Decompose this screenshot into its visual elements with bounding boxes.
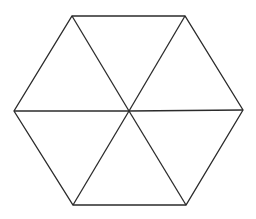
hexagon-diagram (0, 0, 256, 219)
hexagon-svg (0, 0, 256, 219)
spoke-line-3 (129, 111, 186, 205)
spoke-line-2 (129, 110, 243, 111)
spoke-line-0 (72, 16, 129, 111)
hexagon-spokes (14, 16, 243, 205)
spoke-line-4 (73, 111, 129, 205)
spoke-line-1 (129, 16, 185, 111)
